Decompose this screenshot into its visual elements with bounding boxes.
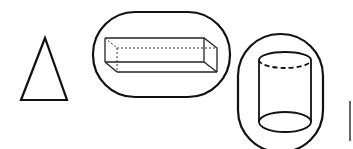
shapes-diagram	[0, 0, 353, 149]
cylinder-shape	[259, 52, 311, 132]
prism-enclosure	[93, 12, 230, 97]
rectangular-prism-shape	[105, 38, 217, 72]
triangle-shape	[21, 38, 67, 100]
